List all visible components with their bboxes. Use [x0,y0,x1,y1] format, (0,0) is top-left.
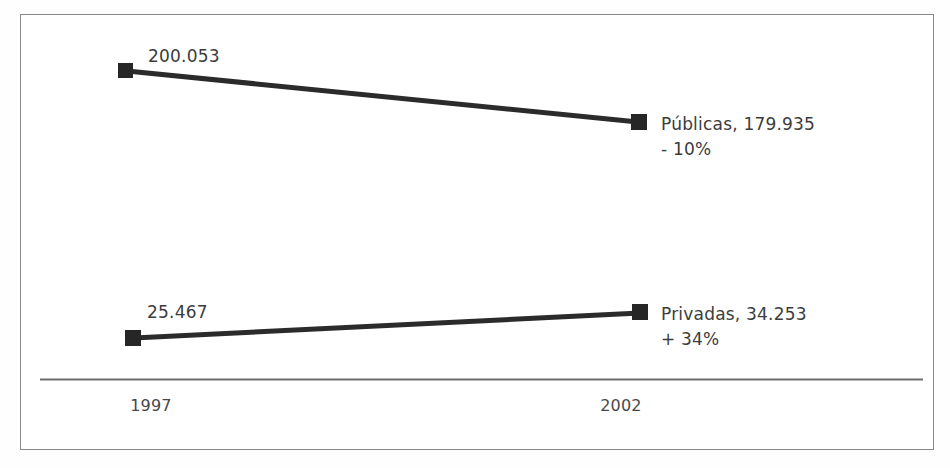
series-label-privadas-value: Privadas, 34.253 [661,304,807,324]
series-label-privadas: Privadas, 34.253 + 34% [661,302,807,352]
series-change-publicas: - 10% [661,137,815,162]
series-label-publicas-value: Públicas, 179.935 [661,114,815,134]
series-line-privadas [134,313,640,338]
marker-privadas-2002 [632,304,648,320]
marker-publicas-2002 [631,114,647,130]
data-label-privadas-start: 25.467 [147,300,208,324]
series-line-publicas [127,71,638,122]
chart-page: 200.053 25.467 Públicas, 179.935 - 10% P… [0,0,950,468]
plot-area: 200.053 25.467 Públicas, 179.935 - 10% P… [0,0,950,468]
x-tick-label-2002: 2002 [581,396,661,416]
x-tick-label-1997: 1997 [111,396,191,416]
series-change-privadas: + 34% [661,327,807,352]
marker-privadas-1997 [125,330,141,346]
marker-publicas-1997 [118,63,133,78]
series-label-publicas: Públicas, 179.935 - 10% [661,112,815,162]
data-label-publicas-start: 200.053 [148,44,220,68]
